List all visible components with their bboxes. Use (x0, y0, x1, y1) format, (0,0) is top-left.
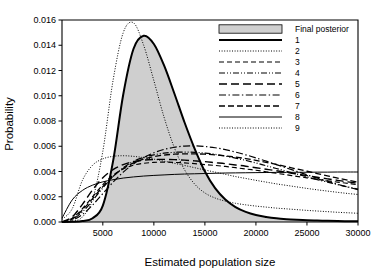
legend-label-4: 4 (295, 68, 300, 78)
y-tick-label: 0.014 (33, 40, 56, 50)
legend-swatch-final-posterior (219, 25, 282, 33)
y-tick-label: 0.012 (33, 66, 56, 76)
x-tick-label: 20000 (243, 228, 268, 238)
probability-distribution-chart: 0.0000.0020.0040.0060.0080.0100.0120.014… (0, 0, 378, 275)
legend-label-3: 3 (295, 57, 300, 67)
y-tick-label: 0.010 (33, 91, 56, 101)
legend-label-final-posterior: Final posterior (295, 24, 349, 34)
y-axis-title: Probability (3, 97, 15, 151)
y-tick-label: 0.008 (33, 116, 56, 126)
y-tick-label: 0.004 (33, 167, 56, 177)
y-tick-label: 0.000 (33, 217, 56, 227)
legend-label-6: 6 (295, 90, 300, 100)
legend-label-9: 9 (295, 123, 300, 133)
legend-label-8: 8 (295, 112, 300, 122)
x-tick-label: 25000 (294, 228, 319, 238)
legend-label-2: 2 (295, 46, 300, 56)
x-tick-label: 15000 (192, 228, 217, 238)
y-tick-label: 0.016 (33, 15, 56, 25)
legend-label-5: 5 (295, 79, 300, 89)
legend-label-1: 1 (295, 35, 300, 45)
x-tick-label: 5000 (93, 228, 113, 238)
y-tick-label: 0.006 (33, 141, 56, 151)
x-tick-label: 30000 (345, 228, 370, 238)
y-tick-label: 0.002 (33, 192, 56, 202)
x-tick-label: 10000 (141, 228, 166, 238)
legend-label-7: 7 (295, 101, 300, 111)
x-axis-title: Estimated population size (144, 256, 275, 268)
